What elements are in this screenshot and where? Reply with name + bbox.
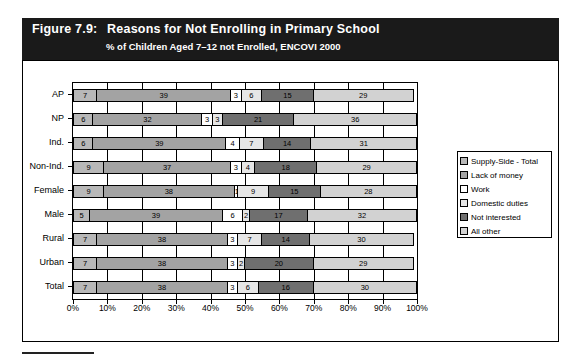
bar-segment: 7 [240, 137, 264, 150]
stacked-bars: 7393615296323321366394714319373418299381… [73, 83, 417, 299]
figure-title-banner: Figure 7.9: Reasons for Not Enrolling in… [22, 18, 559, 60]
bar-segment: 6 [242, 89, 263, 102]
footer-rule [22, 352, 94, 354]
x-axis-tick-label: 10% [99, 303, 116, 313]
bar-segment-value: 9 [251, 187, 255, 196]
y-axis-tick-label: Ind. [49, 136, 64, 149]
bar-segment-value: 7 [248, 235, 252, 244]
bar-segment: 17 [250, 209, 308, 222]
bar-segment-value: 3 [234, 163, 238, 172]
y-axis-labels: APNPInd.Non-Ind.FemaleMaleRuralUrbanTota… [0, 82, 68, 300]
legend-item[interactable]: Supply-Side - Total [460, 154, 551, 168]
bar-segment: 38 [97, 233, 228, 246]
bar-segment-value: 3 [234, 91, 238, 100]
legend-item[interactable]: Not interested [460, 210, 551, 224]
bar-segment: 15 [269, 185, 321, 198]
bar-segment-value: 39 [155, 139, 163, 148]
bar-segment: 3 [231, 89, 241, 102]
bar-segment: 7 [238, 233, 262, 246]
x-axis-tick [417, 300, 418, 304]
bar-segment-value: 7 [83, 235, 87, 244]
bar-segment-value: 7 [83, 91, 87, 100]
bar-segment-value: 6 [230, 211, 234, 220]
bar-segment: 18 [255, 161, 317, 174]
bar-segment-value: 30 [357, 235, 365, 244]
bar-segment-value: 6 [81, 115, 85, 124]
y-axis-tick-label: Urban [39, 256, 64, 269]
bar-segment-value: 15 [283, 91, 291, 100]
legend-item[interactable]: All other [460, 224, 551, 238]
bar-segment: 29 [314, 257, 414, 270]
legend-item[interactable]: Lack of money [460, 168, 551, 182]
x-axis-tick [211, 300, 212, 304]
bar-segment-value: 9 [86, 187, 90, 196]
bar-segment: 4 [242, 161, 256, 174]
bar-segment-value: 7 [83, 283, 87, 292]
bar-segment: 9 [73, 161, 104, 174]
x-axis-tick [279, 300, 280, 304]
bar-segment-value: 5 [79, 211, 83, 220]
legend-label: Supply-Side - Total [471, 157, 538, 166]
y-axis-tick-label: Male [44, 208, 64, 221]
bar-segment: 7 [73, 257, 97, 270]
bar-segment: 9 [73, 185, 104, 198]
bar-row: 539621732 [73, 209, 417, 222]
legend-swatch-icon [460, 227, 468, 235]
x-axis-tick [107, 300, 108, 304]
bar-segment-value: 17 [274, 211, 282, 220]
bar-segment: 39 [93, 137, 226, 150]
bar-segment-value: 37 [163, 163, 171, 172]
bar-segment-value: 32 [358, 211, 366, 220]
bar-segment: 30 [314, 281, 417, 294]
bar-segment: 6 [223, 209, 243, 222]
chart-legend: Supply-Side - TotalLack of moneyWorkDome… [457, 151, 552, 238]
figure-page: Figure 7.9: Reasons for Not Enrolling in… [0, 0, 581, 362]
legend-item[interactable]: Work [460, 182, 551, 196]
legend-swatch-icon [460, 185, 468, 193]
bar-segment-value: 38 [158, 235, 166, 244]
figure-title-line: Figure 7.9: Reasons for Not Enrolling in… [32, 22, 380, 36]
bar-segment-value: 7 [83, 259, 87, 268]
legend-label: All other [471, 227, 500, 236]
y-axis-tick-label: AP [52, 88, 64, 101]
figure-title-text: Reasons for Not Enrolling in Primary Sch… [107, 22, 380, 36]
bar-segment: 37 [104, 161, 231, 174]
bar-segment: 9 [238, 185, 269, 198]
legend-swatch-icon [460, 213, 468, 221]
bar-segment-value: 31 [360, 139, 368, 148]
bar-segment: 15 [262, 89, 314, 102]
bar-row: 937341829 [73, 161, 417, 174]
y-axis-tick [68, 118, 72, 119]
legend-label: Lack of money [471, 171, 523, 180]
bar-segment-value: 28 [364, 187, 372, 196]
bar-segment: 38 [104, 185, 235, 198]
bar-segment: 39 [97, 89, 231, 102]
x-axis-tick [348, 300, 349, 304]
bar-row: 639471431 [73, 137, 417, 150]
x-axis-tick-label: 20% [133, 303, 150, 313]
figure-subtitle: % of Children Aged 7–12 not Enrolled, EN… [106, 41, 341, 52]
bar-segment: 5 [73, 209, 90, 222]
bar-segment-value: 7 [249, 139, 253, 148]
bar-segment: 3 [228, 281, 238, 294]
bar-segment: 6 [238, 281, 259, 294]
bar-segment-value: 38 [158, 283, 166, 292]
bar-row: 738361630 [73, 281, 417, 294]
bar-segment: 39 [90, 209, 223, 222]
bar-segment-value: 3 [215, 115, 219, 124]
bar-segment: 16 [259, 281, 314, 294]
bar-segment-value: 36 [351, 115, 359, 124]
bar-segment: 7 [73, 281, 97, 294]
legend-item[interactable]: Domestic duties [460, 196, 551, 210]
bar-segment-value: 6 [81, 139, 85, 148]
bar-segment: 6 [73, 137, 93, 150]
bar-segment-value: 3 [230, 259, 234, 268]
bar-segment-value: 16 [282, 283, 290, 292]
bar-row: 739361529 [73, 89, 417, 102]
bar-segment: 14 [262, 233, 310, 246]
x-axis-tick-label: 80% [340, 303, 357, 313]
y-axis-tick [68, 262, 72, 263]
bar-segment: 7 [73, 233, 97, 246]
bar-segment: 38 [97, 281, 228, 294]
x-axis-tick-label: 100% [406, 303, 428, 313]
